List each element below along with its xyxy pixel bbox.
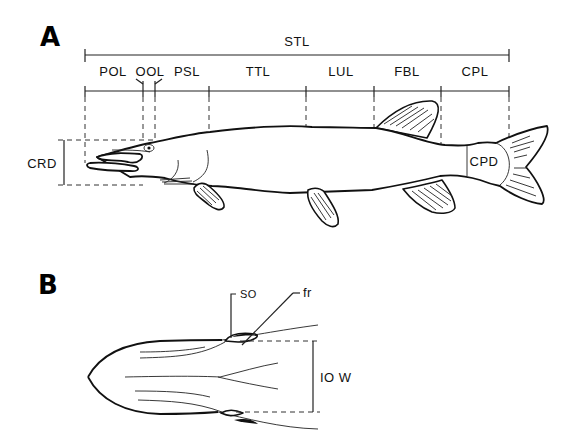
psl-label: PSL [174,64,200,79]
panel-a: A STL POL OOL PSL TTL LUL FBL CPL [27,22,547,227]
cpd-label: CPD [470,154,499,169]
head-dorsal-view [88,325,318,429]
anal-fin [403,180,455,213]
iow-label: IO W [320,370,352,385]
cpl-label: CPL [462,64,489,79]
segment-measure-bar [85,79,509,97]
panel-b-letter: B [38,270,58,300]
pol-label: POL [99,64,127,79]
stl-measure-bar [85,49,509,62]
pelvic-fin [308,188,339,226]
so-label: SO [240,288,257,300]
fbl-label: FBL [394,64,419,79]
pupil [147,146,150,149]
crd-label: CRD [27,156,57,171]
panel-b: B SO [38,270,352,429]
lul-label: LUL [328,64,353,79]
fish-morphometrics-diagram: A STL POL OOL PSL TTL LUL FBL CPL [0,0,574,448]
fr-label: fr [303,285,312,300]
panel-a-letter: A [40,22,60,52]
ttl-label: TTL [246,64,271,79]
iow-measure-bar [236,341,320,412]
stl-label: STL [284,34,309,49]
ool-label: OOL [136,64,165,79]
supraorbital-lower [221,410,243,415]
so-leader [231,294,236,338]
